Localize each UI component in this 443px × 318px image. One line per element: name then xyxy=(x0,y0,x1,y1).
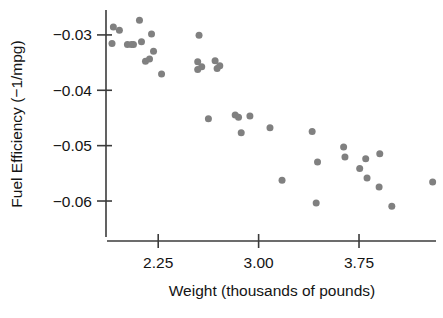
x-axis-tick-labels: 2.253.003.75 xyxy=(143,254,374,271)
data-point xyxy=(205,115,212,122)
data-point xyxy=(146,56,153,63)
data-point xyxy=(266,124,273,131)
data-point xyxy=(314,158,321,165)
y-tick-label: −0.03 xyxy=(53,26,92,43)
data-point xyxy=(235,114,242,121)
data-point xyxy=(158,70,165,77)
y-tick-label: −0.05 xyxy=(53,137,92,154)
data-point xyxy=(238,129,245,136)
x-tick-label: 3.75 xyxy=(344,254,374,271)
data-point xyxy=(216,62,223,69)
data-point xyxy=(340,144,347,151)
y-axis-ticks xyxy=(97,35,112,201)
y-axis-title: Fuel Efficiency (−1/mpg) xyxy=(8,40,25,207)
data-point xyxy=(376,150,383,157)
data-point xyxy=(148,31,155,38)
data-point xyxy=(429,178,436,185)
x-axis-title: Weight (thousands of pounds) xyxy=(169,282,376,299)
data-point xyxy=(138,38,145,45)
data-point xyxy=(309,128,316,135)
data-point xyxy=(313,199,320,206)
y-tick-label: −0.04 xyxy=(53,82,93,99)
data-point xyxy=(109,40,116,47)
data-point xyxy=(246,113,253,120)
data-point xyxy=(376,183,383,190)
data-point xyxy=(116,27,123,34)
data-points-layer xyxy=(109,17,437,210)
data-point xyxy=(196,32,203,39)
data-point xyxy=(364,175,371,182)
scatter-plot-figure: −0.03−0.04−0.05−0.06 2.253.003.75 Weight… xyxy=(0,0,443,318)
x-axis-group xyxy=(107,234,436,248)
data-point xyxy=(388,203,395,210)
data-point xyxy=(362,155,369,162)
data-point xyxy=(136,17,143,24)
data-point xyxy=(341,154,348,161)
data-point xyxy=(150,48,157,55)
data-point xyxy=(356,165,363,172)
data-point xyxy=(279,177,286,184)
y-axis-tick-labels: −0.03−0.04−0.05−0.06 xyxy=(53,26,93,209)
y-tick-label: −0.06 xyxy=(53,193,92,210)
data-point xyxy=(128,41,135,48)
x-tick-label: 2.25 xyxy=(143,254,173,271)
plot-canvas: −0.03−0.04−0.05−0.06 2.253.003.75 Weight… xyxy=(0,0,443,318)
data-point xyxy=(110,23,117,30)
data-point xyxy=(198,63,205,70)
x-tick-label: 3.00 xyxy=(244,254,275,271)
